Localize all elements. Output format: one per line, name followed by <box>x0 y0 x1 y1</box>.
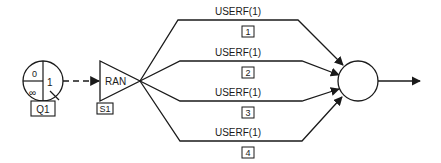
branch-2[interactable]: USERF(1) 2 <box>140 47 339 81</box>
junction-node[interactable] <box>338 61 378 101</box>
source-tag: S1 <box>99 104 110 114</box>
branch-3-label: USERF(1) <box>215 87 261 98</box>
network-diagram: 0 ∞ 1 Q1 RAN S1 USERF(1) 1 USERF(1) 2 US… <box>0 0 441 163</box>
queue-capacity-infinity: ∞ <box>29 87 36 98</box>
branch-1-label: USERF(1) <box>215 6 261 17</box>
branch-3-number: 3 <box>245 108 250 118</box>
queue-node[interactable]: 0 ∞ 1 Q1 <box>23 61 63 116</box>
source-node[interactable]: RAN S1 <box>97 61 140 114</box>
branch-1-number: 1 <box>245 27 250 37</box>
branch-2-label: USERF(1) <box>215 47 261 58</box>
queue-label: Q1 <box>36 104 50 115</box>
branch-3[interactable]: USERF(1) 3 <box>140 81 339 118</box>
branch-4-number: 4 <box>245 148 250 158</box>
queue-capacity-top: 0 <box>32 69 37 79</box>
source-label: RAN <box>105 76 126 87</box>
branch-2-number: 2 <box>245 68 250 78</box>
branch-4-label: USERF(1) <box>215 127 261 138</box>
queue-servers: 1 <box>47 77 53 88</box>
